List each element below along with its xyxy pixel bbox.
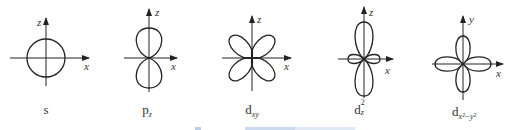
x-axis-label: x <box>495 67 501 79</box>
label-dz2: d2z <box>354 102 368 118</box>
panel-dxy: z x <box>222 13 291 91</box>
x-axis-label: x <box>170 60 176 72</box>
panel-s: z x <box>10 16 89 86</box>
panel-dz2: z x <box>338 6 393 98</box>
label-pz: pz <box>142 102 152 119</box>
y-axis-label: y <box>468 13 474 25</box>
label-dxy: dxy <box>245 102 259 119</box>
z-axis-label: z <box>154 6 160 18</box>
z-axis-label: z <box>368 6 374 18</box>
x-axis-label: x <box>83 60 89 72</box>
label-dx2y2: dx²−y² <box>452 104 476 121</box>
z-axis-label: z <box>36 16 42 28</box>
x-axis-label: x <box>283 60 289 72</box>
panel-pz: z x <box>124 6 177 92</box>
figure-caption-truncated <box>195 127 355 130</box>
z-axis-label: z <box>256 13 262 25</box>
panel-dx2y2: y x <box>432 13 503 100</box>
label-s: s <box>43 102 48 118</box>
x-axis-label: x <box>384 64 390 76</box>
